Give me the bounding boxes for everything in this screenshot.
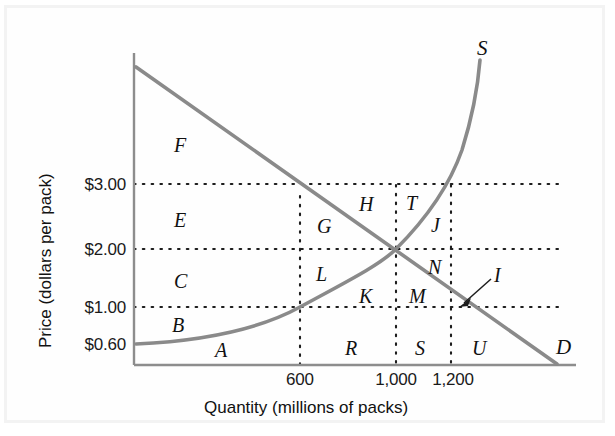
region-label-r: R bbox=[345, 338, 357, 358]
y-tick-label-3-00: $3.00 bbox=[44, 175, 126, 195]
x-tick-label-600: 600 bbox=[265, 370, 335, 390]
callout-arrow-line bbox=[464, 279, 491, 303]
supply-curve-label: S bbox=[477, 38, 488, 59]
region-label-n: N bbox=[428, 257, 441, 277]
region-label-e: E bbox=[174, 210, 186, 230]
region-label-j: J bbox=[431, 215, 440, 235]
x-axis-title: Quantity (millions of packs) bbox=[204, 398, 408, 418]
region-label-f: F bbox=[174, 135, 186, 155]
region-label-k: K bbox=[359, 286, 372, 306]
region-label-s: S bbox=[415, 338, 425, 358]
region-label-b: B bbox=[172, 315, 184, 335]
y-tick-label-0-60: $0.60 bbox=[44, 335, 126, 355]
region-label-g: G bbox=[317, 216, 331, 236]
y-tick-label-1-00: $1.00 bbox=[44, 298, 126, 318]
region-label-m: M bbox=[409, 286, 426, 306]
region-label-t: T bbox=[406, 193, 417, 213]
supply-demand-chart: $3.00 $2.00 $1.00 $0.60 600 1,000 1,200 … bbox=[0, 0, 615, 436]
annotation-label-i: I bbox=[494, 265, 501, 285]
region-label-c: C bbox=[174, 271, 187, 291]
demand-curve-label: D bbox=[556, 337, 571, 358]
region-label-u: U bbox=[472, 338, 486, 358]
region-label-h: H bbox=[359, 194, 373, 214]
y-tick-label-2-00: $2.00 bbox=[44, 240, 126, 260]
demand-curve bbox=[136, 67, 557, 364]
figure-root: $3.00 $2.00 $1.00 $0.60 600 1,000 1,200 … bbox=[0, 0, 615, 436]
x-tick-label-1200: 1,200 bbox=[419, 370, 487, 390]
y-axis-title: Price (dollars per pack) bbox=[36, 173, 56, 348]
region-label-l: L bbox=[316, 264, 327, 284]
region-label-a: A bbox=[215, 340, 227, 360]
